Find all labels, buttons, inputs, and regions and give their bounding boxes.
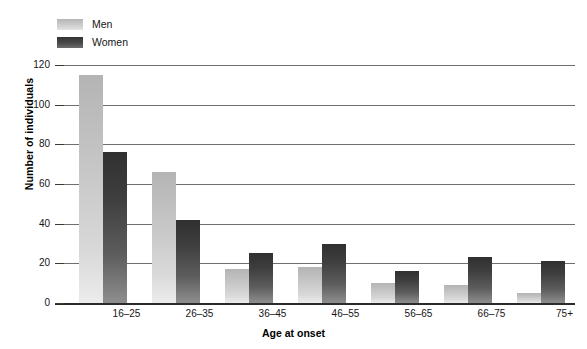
bar-men-36-45[interactable] (225, 269, 249, 303)
bar-men-26-35[interactable] (152, 172, 176, 303)
y-axis-tick (55, 105, 64, 106)
bar-men-66-75[interactable] (444, 285, 468, 303)
x-axis-line (55, 303, 575, 305)
bar-group (225, 65, 273, 303)
y-axis-tick (55, 144, 64, 145)
bar-women-75+[interactable] (541, 261, 565, 303)
bar-men-56-65[interactable] (371, 283, 395, 303)
bar-group (371, 65, 419, 303)
chart-legend: Men Women (57, 17, 128, 53)
bar-women-16-25[interactable] (103, 152, 127, 303)
legend-swatch-women-icon (57, 37, 83, 48)
y-axis-tick-label: 120 (16, 60, 50, 70)
bar-women-56-65[interactable] (395, 271, 419, 303)
x-axis-tick-label: 75+ (520, 308, 587, 319)
bar-women-46-55[interactable] (322, 244, 346, 304)
y-axis-title: Number of individuals (23, 49, 35, 219)
y-axis-tick (55, 65, 64, 66)
legend-swatch-men-icon (57, 19, 83, 30)
y-axis-tick (55, 184, 64, 185)
y-axis-tick-label: 60 (16, 179, 50, 189)
plot-area: 02040608010012016–2526–3536–4546–5556–65… (64, 65, 575, 303)
bar-group (79, 65, 127, 303)
y-axis-tick (55, 303, 64, 304)
legend-item-women: Women (57, 35, 128, 50)
y-axis-tick-label: 80 (16, 139, 50, 149)
bar-group (298, 65, 346, 303)
y-axis-tick-label: 20 (16, 258, 50, 268)
bar-women-66-75[interactable] (468, 257, 492, 303)
y-axis-tick-label: 0 (16, 298, 50, 308)
bar-chart: Men Women Number of individuals 02040608… (0, 0, 587, 349)
legend-label-women: Women (92, 37, 128, 48)
bar-men-46-55[interactable] (298, 267, 322, 303)
y-axis-tick (55, 224, 64, 225)
bar-group (152, 65, 200, 303)
y-axis-tick-label: 100 (16, 100, 50, 110)
y-axis-tick-label: 40 (16, 219, 50, 229)
bar-men-16-25[interactable] (79, 75, 103, 303)
legend-label-men: Men (92, 19, 112, 30)
y-axis-tick (55, 263, 64, 264)
bar-women-26-35[interactable] (176, 220, 200, 303)
bar-group (444, 65, 492, 303)
bar-group (517, 65, 565, 303)
bar-men-75+[interactable] (517, 293, 541, 303)
x-axis-title: Age at onset (0, 327, 587, 339)
legend-item-men: Men (57, 17, 128, 32)
bar-women-36-45[interactable] (249, 253, 273, 303)
